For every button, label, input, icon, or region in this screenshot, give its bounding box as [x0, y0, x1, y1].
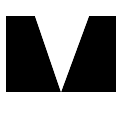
rectangle-triangle-diagram — [0, 0, 124, 118]
